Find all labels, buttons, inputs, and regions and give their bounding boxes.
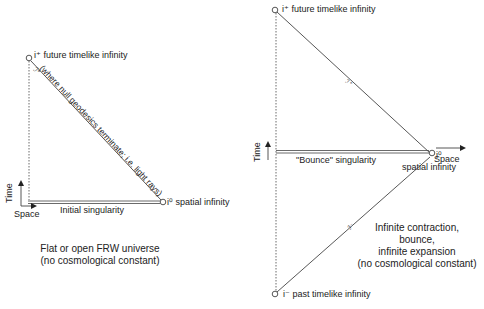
left-i-plus-point [26,55,32,61]
left-caption-line1: Flat or open FRW universe [20,243,180,255]
left-i-zero-point [160,199,166,205]
left-spatial-infinity-label: i⁰ spatial infinity [167,197,230,207]
right-caption-line4: (no cosmological constant) [350,258,484,270]
left-caption-line2: (no cosmological constant) [20,255,180,267]
right-i-plus-point [272,7,278,13]
right-bounce-singularity-label: "Bounce" singularity [296,155,376,165]
right-i-minus-point [272,291,278,297]
right-caption: Infinite contraction, bounce, infinite e… [350,222,484,270]
right-caption-line3: infinite expansion [350,246,484,258]
right-future-null-line [277,12,430,153]
left-caption: Flat or open FRW universe (no cosmologic… [20,243,180,267]
left-time-axis-label: Time [4,183,14,203]
left-time-arrowhead-icon [18,180,24,186]
left-penrose-diagram [18,55,166,209]
right-time-axis-label: Time [252,142,262,162]
right-space-axis-label: Space [434,154,460,164]
left-future-infinity-label: i⁺ future timelike infinity [34,50,128,60]
left-space-axis-label: Space [14,209,40,219]
right-caption-line1: Infinite contraction, [350,222,484,234]
right-time-arrowhead-icon [265,141,271,147]
right-future-infinity-label: i⁺ future timelike infinity [282,4,376,14]
right-past-infinity-label: i⁻ past timelike infinity [283,289,371,299]
right-caption-line2: bounce, [350,234,484,246]
right-space-arrowhead-icon [460,145,466,151]
left-singularity-label: Initial singularity [60,205,124,215]
